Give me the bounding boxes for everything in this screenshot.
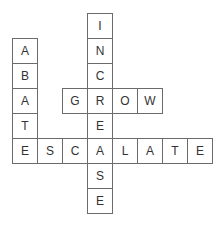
- crossword-cell: T: [12, 113, 38, 139]
- crossword-cell: S: [87, 163, 113, 189]
- crossword-cell: E: [187, 138, 213, 164]
- crossword-cell: I: [87, 13, 113, 39]
- crossword-cell: N: [87, 38, 113, 64]
- crossword-cell: A: [12, 38, 38, 64]
- crossword-cell: L: [112, 138, 138, 164]
- crossword-cell: A: [12, 88, 38, 114]
- crossword-cell: C: [87, 63, 113, 89]
- crossword-cell: O: [112, 88, 138, 114]
- crossword-cell: A: [87, 138, 113, 164]
- crossword-cell: G: [62, 88, 88, 114]
- crossword-cell: C: [62, 138, 88, 164]
- crossword-cell: B: [12, 63, 38, 89]
- crossword-cell: E: [87, 188, 113, 214]
- crossword-cell: A: [137, 138, 163, 164]
- crossword-cell: S: [37, 138, 63, 164]
- crossword-cell: W: [137, 88, 163, 114]
- crossword-cell: E: [87, 113, 113, 139]
- crossword-grid: IANBCAGROWTEESCALATESE: [0, 0, 218, 226]
- crossword-cell: R: [87, 88, 113, 114]
- crossword-cell: T: [162, 138, 188, 164]
- crossword-cell: E: [12, 138, 38, 164]
